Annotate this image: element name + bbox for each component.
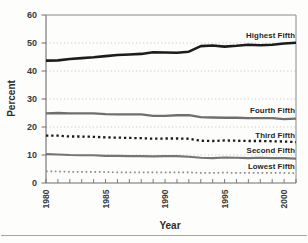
x-tick-label-1980: 1980: [41, 185, 51, 213]
series-label-third-fifth: Third Fifth: [205, 131, 295, 140]
y-tick-label-60: 60: [16, 10, 37, 20]
income-quintile-chart-figure: 60 50 40 30 20 10 0 1980 1985 1990 1995 …: [0, 0, 308, 243]
series-label-lowest-fifth: Lowest Fifth: [205, 162, 295, 171]
x-tick-label-1990: 1990: [160, 185, 170, 213]
series-label-fourth-fifth: Fourth Fifth: [205, 106, 295, 115]
x-tick-label-2000: 2000: [279, 185, 289, 213]
x-tick-label-1985: 1985: [101, 185, 111, 213]
series-label-second-fifth: Second Fifth: [205, 146, 295, 155]
x-axis-title: Year: [150, 220, 190, 232]
y-tick-label-0: 0: [16, 178, 37, 188]
y-tick-label-30: 30: [16, 94, 37, 104]
line-lowest-fifth: [46, 171, 296, 173]
x-tick-label-1995: 1995: [220, 185, 230, 213]
series-label-highest-fifth: Highest Fifth: [205, 31, 295, 40]
y-axis-title: Percent: [6, 74, 17, 124]
y-tick-label-40: 40: [16, 66, 37, 76]
page-divider-rule: [1, 235, 307, 236]
y-tick-label-10: 10: [16, 150, 37, 160]
y-tick-label-50: 50: [16, 38, 37, 48]
line-highest-fifth: [46, 43, 296, 61]
y-tick-label-20: 20: [16, 122, 37, 132]
